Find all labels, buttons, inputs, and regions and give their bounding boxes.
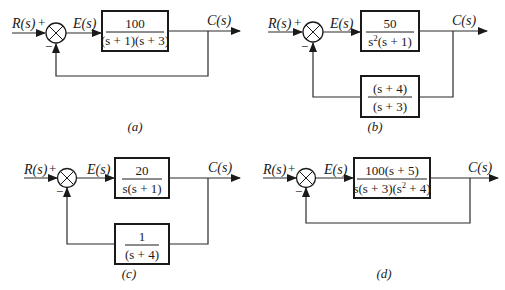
caption-b: (b) [367, 119, 382, 134]
feedback-block-b: (s + 4) (s + 3) [361, 76, 419, 117]
feedback-to-block-c [169, 178, 208, 244]
plus-sign-d: + [288, 161, 295, 176]
error-label-c: E(s) [86, 162, 111, 178]
forward-block-b: 50 s2(s + 1) [361, 11, 419, 51]
output-label-a: C(s) [207, 13, 231, 29]
forward-denominator-d: s(s + 3)(s2 + 4) [353, 181, 430, 196]
input-label-d: R(s) [262, 162, 287, 178]
diagram-a: R(s) + − E(s) 100 (s + 1)(s + 3) C(s) (a… [11, 11, 240, 134]
feedback-denominator-b: (s + 3) [373, 99, 407, 114]
feedback-block-c: 1 (s + 4) [115, 224, 169, 264]
forward-block-a: 100 (s + 1)(s + 3) [101, 11, 169, 51]
forward-denominator-a: (s + 1)(s + 3) [101, 33, 169, 48]
caption-c: (c) [122, 266, 136, 281]
error-label-a: E(s) [72, 16, 97, 32]
minus-sign-b: − [301, 39, 308, 54]
feedback-numerator-b: (s + 4) [373, 81, 407, 96]
minus-sign-c: − [56, 184, 63, 199]
caption-d: (d) [376, 266, 391, 281]
output-label-d: C(s) [468, 160, 492, 176]
error-label-d: E(s) [323, 162, 348, 178]
diagram-d: R(s) + − E(s) 100(s + 5) s(s + 3)(s2 + 4… [262, 158, 498, 281]
feedback-path-b [313, 43, 361, 97]
output-label-c: C(s) [208, 160, 232, 176]
block-diagrams-figure: R(s) + − E(s) 100 (s + 1)(s + 3) C(s) (a… [0, 0, 505, 290]
minus-sign-d: − [295, 184, 302, 199]
minus-sign-a: − [45, 39, 52, 54]
caption-a: (a) [127, 119, 142, 134]
diagram-b: R(s) + − E(s) 50 s2(s + 1) C(s) (s + 4) … [267, 11, 487, 134]
feedback-to-block-b [419, 31, 453, 97]
diagram-c: R(s) + − E(s) 20 s(s + 1) C(s) 1 (s + 4)… [23, 158, 240, 281]
input-label-c: R(s) [23, 162, 48, 178]
error-label-b: E(s) [329, 16, 354, 32]
forward-numerator-c: 20 [136, 163, 149, 178]
plus-sign-a: + [38, 15, 45, 30]
plus-sign-b: + [294, 15, 301, 30]
output-label-b: C(s) [452, 13, 476, 29]
forward-block-d: 100(s + 5) s(s + 3)(s2 + 4) [353, 158, 430, 198]
forward-numerator-b: 50 [384, 16, 397, 31]
input-label-b: R(s) [267, 16, 292, 32]
feedback-denominator-c: (s + 4) [125, 247, 159, 262]
forward-block-c: 20 s(s + 1) [115, 158, 169, 198]
forward-numerator-a: 100 [125, 16, 145, 31]
feedback-path-c [67, 188, 115, 244]
feedback-numerator-c: 1 [139, 229, 146, 244]
plus-sign-c: + [49, 161, 56, 176]
input-label-a: R(s) [11, 16, 36, 32]
forward-numerator-d: 100(s + 5) [365, 163, 419, 178]
forward-denominator-c: s(s + 1) [122, 181, 161, 196]
